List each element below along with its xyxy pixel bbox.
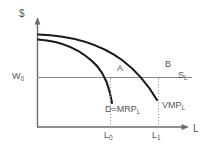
point-a-label: A — [117, 64, 123, 73]
x-tick-label-l1: L1 — [152, 131, 161, 140]
y-axis-label: $ — [19, 9, 25, 19]
demand-curve-label: D=MRPL — [105, 105, 140, 114]
x-axis-label: L — [193, 124, 199, 134]
x-tick-l1-subscript: 1 — [157, 134, 161, 141]
vmp-curve-label: VMPL — [162, 101, 185, 110]
demand-curve-text: D=MRP — [105, 104, 137, 114]
y-axis-arrow-icon — [35, 17, 41, 25]
wage-tick-subscript: 0 — [21, 75, 25, 82]
x-axis-arrow-icon — [182, 124, 190, 130]
chart-canvas: $ L W0 A B SL VMPL D=MRPL L0 L1 — [0, 0, 206, 148]
vmp-curve-subscript: L — [182, 104, 186, 111]
labor-market-chart — [0, 0, 206, 148]
wage-tick-label: W0 — [12, 72, 24, 81]
curve-demand-mrpl — [38, 40, 112, 104]
supply-curve-subscript: L — [184, 74, 188, 81]
supply-curve-label: SL — [178, 71, 188, 80]
wage-tick-text: W — [12, 71, 21, 81]
x-tick-label-l0: L0 — [104, 131, 113, 140]
x-axis — [37, 124, 189, 130]
x-tick-l0-subscript: 0 — [109, 134, 113, 141]
point-b-label: B — [165, 60, 171, 69]
vmp-curve-text: VMP — [162, 100, 182, 110]
demand-curve-subscript: L — [137, 108, 141, 115]
